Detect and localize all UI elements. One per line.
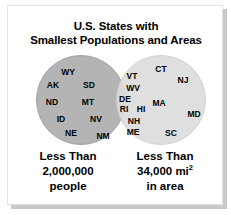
state-label-sc: SC (165, 129, 177, 138)
state-label-hi: HI (137, 105, 146, 114)
state-label-nj: NJ (178, 76, 189, 85)
state-label-vt: VT (127, 72, 138, 81)
state-label-md: MD (187, 110, 200, 119)
state-label-ak: AK (47, 81, 59, 90)
venn-stage: WYAKSDNDMTIDNVNENMVTWVDERIHINHMECTNJMAMD… (8, 51, 224, 149)
state-label-me: ME (127, 128, 140, 137)
caption-population: Less Than 2,000,000 people (18, 149, 118, 194)
state-label-nh: NH (128, 117, 140, 126)
state-label-nm: NM (96, 132, 109, 141)
caption-area-line-1: Less Than (115, 149, 215, 164)
caption-area: Less Than 34,000 mi2 in area (115, 149, 215, 194)
figure-title-line-1: U.S. States with (8, 19, 224, 33)
caption-area-exponent: 2 (189, 163, 193, 172)
caption-population-line-2: 2,000,000 (18, 164, 118, 179)
figure-title: U.S. States with Smallest Populations an… (8, 19, 224, 47)
state-label-ri: RI (120, 105, 129, 114)
state-label-id: ID (57, 115, 66, 124)
caption-population-line-1: Less Than (18, 149, 118, 164)
state-label-wy: WY (61, 68, 75, 77)
state-label-ma: MA (152, 99, 165, 108)
venn-diagram-figure: U.S. States with Smallest Populations an… (7, 5, 223, 205)
caption-area-line-3: in area (115, 179, 215, 194)
figure-shadow-bottom (11, 205, 227, 209)
caption-population-line-3: people (18, 179, 118, 194)
state-label-de: DE (119, 95, 131, 104)
figure-title-line-2: Smallest Populations and Areas (8, 33, 224, 47)
state-label-ne: NE (65, 129, 77, 138)
state-label-mt: MT (82, 98, 94, 107)
caption-area-line-2: 34,000 mi2 (115, 164, 215, 179)
venn-captions: Less Than 2,000,000 people Less Than 34,… (8, 149, 224, 204)
state-label-ct: CT (155, 65, 166, 74)
state-label-nd: ND (46, 98, 58, 107)
state-label-wv: WV (126, 84, 140, 93)
state-label-nv: NV (90, 115, 102, 124)
state-label-sd: SD (83, 81, 95, 90)
caption-area-value: 34,000 mi (137, 165, 189, 177)
